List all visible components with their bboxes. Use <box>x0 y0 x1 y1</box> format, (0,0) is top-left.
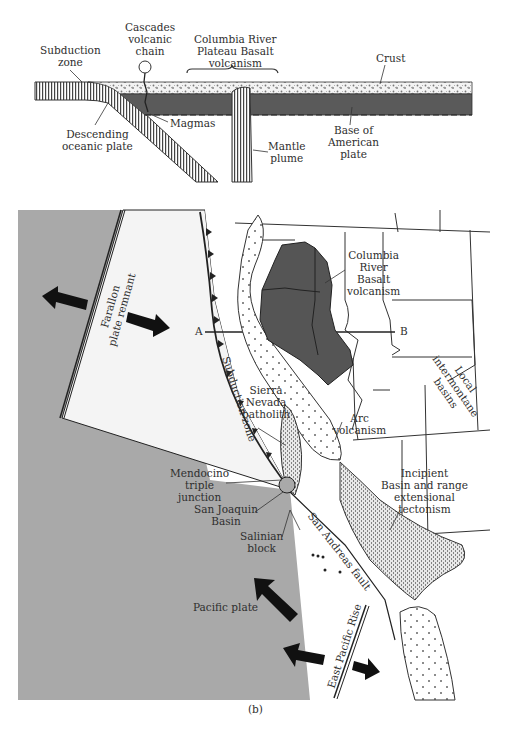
label-sierra-nevada-batholith: Sierra Nevada batholith <box>242 384 290 420</box>
label-mendocino-triple-junction: Mendocino triple junction <box>170 467 229 503</box>
label-point-b: B <box>400 325 408 337</box>
figure-caption: (b) <box>248 703 263 715</box>
label-point-a: A <box>195 325 203 337</box>
label-arc-volcanism: Arc volcanism <box>333 412 386 436</box>
label-pacific-plate: Pacific plate <box>193 601 258 613</box>
label-incipient-basin-and-range: Incipient Basin and range extensional te… <box>381 467 468 515</box>
label-salinian-block: Salinian block <box>240 530 283 554</box>
label-columbia-river-basalt: Columbia River Basalt volcanism <box>347 249 400 297</box>
label-san-joaquin-basin: San Joaquin Basin <box>194 503 258 527</box>
mendocino-triple-junction <box>279 477 295 493</box>
